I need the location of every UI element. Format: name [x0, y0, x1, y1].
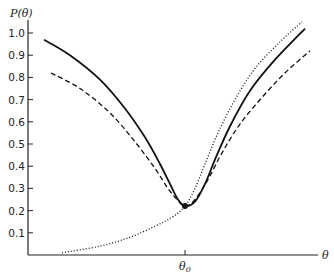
curve-dotted [62, 22, 302, 253]
minimum-point [182, 203, 188, 209]
y-tick-label: 0.8 [8, 71, 25, 83]
y-tick-label: 0.9 [8, 49, 25, 61]
y-tick-label: 0.3 [8, 182, 25, 194]
y-axis-title: P(θ) [9, 7, 33, 20]
y-tick-label: 0.1 [8, 227, 25, 239]
curve-dashed [51, 51, 310, 206]
y-tick-label: 0.5 [8, 138, 25, 150]
y-ticks: 0.10.20.30.40.50.60.70.80.91.0 [8, 27, 33, 239]
chart: 0.10.20.30.40.50.60.70.80.91.0 P(θ) θ θ0 [0, 0, 334, 276]
y-tick-label: 0.2 [8, 205, 25, 217]
series-group [44, 22, 310, 253]
curve-solid [44, 29, 305, 207]
y-tick-label: 1.0 [8, 27, 25, 39]
x-tick-label-theta0: θ0 [179, 260, 191, 274]
x-axis-title: θ [322, 249, 329, 262]
y-tick-label: 0.7 [8, 94, 25, 106]
y-tick-label: 0.6 [8, 116, 25, 128]
y-tick-label: 0.4 [8, 160, 25, 172]
